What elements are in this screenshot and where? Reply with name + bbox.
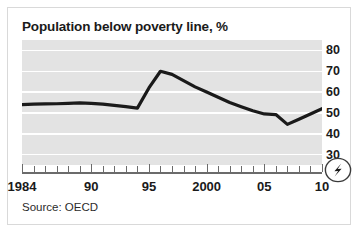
x-tick-label-2000: 2000	[192, 180, 221, 193]
x-tick-2007	[287, 166, 288, 172]
x-tick-major-1995	[149, 164, 150, 172]
x-tick-major-2005	[264, 164, 265, 172]
plot-area	[22, 40, 322, 165]
y-tick-label-70: 70	[326, 65, 340, 78]
x-tick-1996	[160, 166, 161, 172]
economist-bolt-badge-icon	[324, 157, 352, 183]
x-axis-line	[22, 172, 322, 174]
x-tick-2003	[241, 166, 242, 172]
x-tick-major-2000	[207, 164, 208, 172]
x-tick-2002	[230, 166, 231, 172]
x-tick-1994	[137, 166, 138, 172]
x-tick-1997	[172, 166, 173, 172]
y-tick-label-50: 50	[326, 107, 340, 120]
x-tick-2001	[218, 166, 219, 172]
x-tick-1998	[184, 166, 185, 172]
x-tick-label-05: 05	[257, 180, 271, 193]
chart-card: Population below poverty line, % 3040506…	[7, 7, 351, 225]
x-tick-1992	[114, 166, 115, 172]
x-tick-1993	[126, 166, 127, 172]
x-tick-1999	[195, 166, 196, 172]
chart-title: Population below poverty line, %	[22, 19, 228, 34]
x-tick-major-2010	[322, 164, 323, 172]
x-axis	[22, 165, 322, 179]
line-series-svg	[22, 40, 322, 165]
x-tick-1985	[34, 166, 35, 172]
y-tick-label-60: 60	[326, 86, 340, 99]
y-axis-labels: 304050607080	[326, 40, 356, 165]
x-tick-1989	[80, 166, 81, 172]
x-tick-1991	[103, 166, 104, 172]
x-tick-1987	[57, 166, 58, 172]
x-tick-2006	[276, 166, 277, 172]
x-tick-label-95: 95	[142, 180, 156, 193]
x-tick-2004	[253, 166, 254, 172]
x-tick-label-1984: 1984	[8, 180, 37, 193]
series-line-population-below-poverty-line	[22, 71, 322, 124]
x-tick-1988	[68, 166, 69, 172]
x-tick-major-1990	[91, 164, 92, 172]
y-tick-label-80: 80	[326, 44, 340, 57]
x-tick-1986	[45, 166, 46, 172]
x-tick-label-90: 90	[84, 180, 98, 193]
x-axis-labels: 1984909520000510	[22, 180, 332, 198]
source-note: Source: OECD	[22, 201, 98, 213]
y-tick-label-40: 40	[326, 128, 340, 141]
x-tick-major-1984	[22, 164, 23, 172]
x-tick-2008	[299, 166, 300, 172]
x-tick-2009	[310, 166, 311, 172]
